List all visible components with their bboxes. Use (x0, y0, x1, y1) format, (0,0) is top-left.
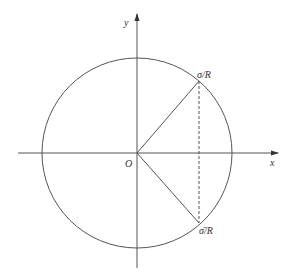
radius-lower (137, 153, 199, 223)
y-axis-label: y (124, 18, 128, 28)
origin-label: O (125, 159, 132, 169)
lower-point-label: σ̄/R (199, 226, 213, 236)
mohr-circle-diagram (0, 0, 296, 279)
radius-upper (137, 81, 199, 153)
upper-point-label: σ/R (197, 70, 211, 80)
x-axis-label: x (270, 158, 274, 168)
